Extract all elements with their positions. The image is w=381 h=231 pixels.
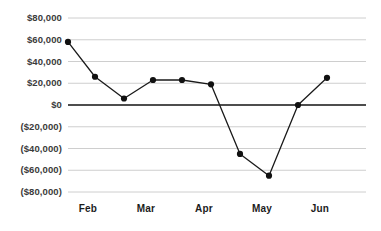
data-point-marker[interactable] xyxy=(324,75,330,81)
data-point-marker[interactable] xyxy=(179,77,185,83)
data-point-marker[interactable] xyxy=(295,102,301,108)
data-point-marker[interactable] xyxy=(208,81,214,87)
chart-plot-area xyxy=(0,0,381,231)
line-chart: $80,000$60,000$40,000$20,000$0($20,000)(… xyxy=(0,0,381,231)
data-point-marker[interactable] xyxy=(92,74,98,80)
data-point-marker[interactable] xyxy=(65,39,71,45)
data-point-marker[interactable] xyxy=(121,95,127,101)
data-point-marker[interactable] xyxy=(237,151,243,157)
data-point-marker[interactable] xyxy=(266,173,272,179)
data-point-marker[interactable] xyxy=(150,77,156,83)
data-line-series-1 xyxy=(68,42,327,176)
